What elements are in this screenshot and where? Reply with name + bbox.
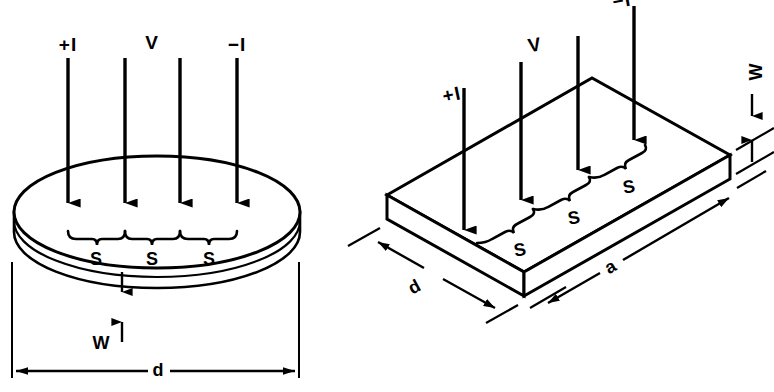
left-panel-disc: +I V −I S S S W bbox=[12, 32, 300, 380]
probe-label-v: V bbox=[526, 33, 543, 56]
slab-body bbox=[387, 78, 730, 296]
probe-label-minus-i: −I bbox=[228, 34, 246, 55]
length-label-a: a bbox=[601, 255, 621, 278]
probe-label-plus-i: +I bbox=[441, 82, 463, 106]
diagram-svg: +I V −I S S S W bbox=[0, 0, 774, 392]
probe-label-plus-i: +I bbox=[59, 34, 77, 55]
probe-label-v: V bbox=[145, 32, 159, 53]
diameter-label-d: d bbox=[153, 360, 164, 380]
spacing-label-s2: S bbox=[146, 249, 158, 269]
figure-canvas: +I V −I S S S W bbox=[0, 0, 774, 392]
spacing-label-s1: S bbox=[90, 249, 102, 269]
width-label-d: d bbox=[405, 275, 424, 298]
d-ext-top bbox=[348, 228, 380, 246]
thickness-label-w: W bbox=[93, 333, 110, 353]
right-panel-slab: +I V −I S S S W bbox=[348, 0, 774, 323]
w-ext-top bbox=[736, 128, 774, 150]
thickness-label-w: W bbox=[746, 64, 766, 81]
thickness-dimension-right bbox=[736, 94, 774, 174]
a-ext-far bbox=[737, 171, 766, 188]
d-arrow-up bbox=[378, 242, 424, 268]
spacing-label-s3: S bbox=[203, 249, 215, 269]
probe-label-minus-i: −I bbox=[611, 0, 633, 12]
d-arrow-down bbox=[443, 279, 495, 308]
d-ext-bottom bbox=[486, 305, 518, 323]
w-ext-bottom bbox=[736, 152, 774, 174]
